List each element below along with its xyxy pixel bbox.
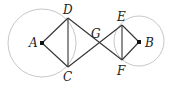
segment-eb: [122, 25, 139, 42]
label-c: C: [63, 70, 72, 84]
segment-fb: [122, 42, 139, 60]
label-d: D: [62, 3, 73, 17]
segment-ad: [42, 18, 68, 43]
geometry-diagram: A B C D E F G: [0, 0, 173, 88]
label-e: E: [116, 10, 126, 24]
label-b: B: [144, 36, 154, 50]
point-b-marker: [137, 40, 141, 44]
point-a-marker: [40, 41, 44, 45]
label-g: G: [91, 27, 101, 41]
label-a: A: [28, 36, 38, 50]
diagram-svg: A B C D E F G: [0, 0, 173, 88]
segment-ac: [42, 43, 68, 67]
label-f: F: [116, 64, 126, 78]
